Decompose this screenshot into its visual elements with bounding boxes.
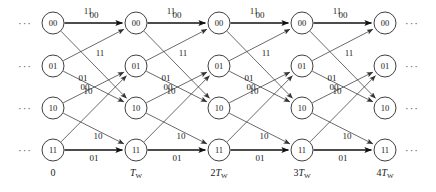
state-node-11-t0[interactable]: 11 (42, 139, 64, 161)
state-node-11-t3[interactable]: 11 (291, 139, 313, 161)
transition-edge-00-to-10 (227, 31, 292, 98)
state-node-10-t1[interactable]: 10 (125, 97, 147, 119)
time-axis-label-0: 0 (51, 167, 56, 178)
state-node-10-t2[interactable]: 10 (208, 97, 230, 119)
state-node-10-t4[interactable]: 10 (374, 97, 396, 119)
state-node-label: 01 (381, 61, 390, 71)
edge-label-11-to-01: 10 (84, 86, 94, 96)
state-node-label: 11 (381, 145, 389, 155)
state-node-11-t2[interactable]: 11 (208, 139, 230, 161)
state-node-label: 00 (215, 18, 224, 28)
state-node-label: 00 (298, 18, 307, 28)
transition-edge-01-to-00 (63, 29, 124, 60)
edge-label-00-to-10: 11 (262, 48, 271, 58)
state-node-11-t1[interactable]: 11 (125, 139, 147, 161)
state-node-label: 11 (298, 145, 306, 155)
state-node-label: 01 (298, 61, 307, 71)
edge-label-10-to-11: 10 (260, 131, 270, 141)
state-node-00-t1[interactable]: 00 (125, 12, 147, 34)
state-node-01-t4[interactable]: 01 (374, 55, 396, 77)
state-node-01-t2[interactable]: 01 (208, 55, 230, 77)
edge-label-11-to-01: 10 (167, 86, 177, 96)
edge-label-10-to-01: 01 (79, 73, 88, 83)
state-node-01-t1[interactable]: 01 (125, 55, 147, 77)
state-node-01-t0[interactable]: 01 (42, 55, 64, 77)
edge-label-11-to-11: 01 (173, 153, 182, 163)
state-node-label: 10 (49, 103, 58, 113)
ellipsis-left-11: ··· (18, 144, 32, 156)
state-node-10-t3[interactable]: 10 (291, 97, 313, 119)
edge-label-01-to-00: 11 (84, 6, 93, 16)
edge-label-11-to-11: 01 (256, 153, 265, 163)
state-node-label: 11 (132, 145, 140, 155)
time-axis-label-3: 3TW (293, 167, 311, 180)
trellis-diagram: 0011110001101001001111000110100100111100… (0, 0, 436, 192)
state-node-label: 00 (49, 18, 58, 28)
state-node-00-t0[interactable]: 00 (42, 12, 64, 34)
edge-label-01-to-00: 11 (333, 6, 342, 16)
trellis-canvas: 0011110001101001001111000110100100111100… (0, 0, 436, 192)
state-node-label: 10 (298, 103, 307, 113)
edge-label-00-to-10: 11 (345, 48, 354, 58)
edge-label-10-to-01: 01 (245, 73, 254, 83)
state-node-label: 10 (132, 103, 141, 113)
edge-label-11-to-11: 01 (90, 153, 99, 163)
transition-edge-00-to-10 (144, 31, 209, 98)
state-node-label: 10 (215, 103, 224, 113)
state-node-00-t3[interactable]: 00 (291, 12, 313, 34)
transition-edge-01-to-00 (229, 29, 290, 60)
transition-edge-00-to-10 (310, 31, 375, 98)
time-axis-label-2: 2TW (210, 167, 228, 180)
state-node-10-t0[interactable]: 10 (42, 97, 64, 119)
edge-label-10-to-11: 10 (94, 131, 104, 141)
transition-edge-00-to-10 (61, 31, 126, 98)
state-node-label: 11 (49, 145, 57, 155)
state-node-label: 10 (381, 103, 390, 113)
edge-label-10-to-11: 10 (177, 131, 187, 141)
ellipsis-right-01: ··· (405, 60, 419, 72)
state-node-00-t4[interactable]: 00 (374, 12, 396, 34)
ellipsis-left-01: ··· (18, 60, 32, 72)
state-node-11-t4[interactable]: 11 (374, 139, 396, 161)
state-node-label: 00 (132, 18, 141, 28)
ellipsis-right-00: ··· (405, 17, 419, 29)
ellipsis-right-11: ··· (405, 144, 419, 156)
state-node-00-t2[interactable]: 00 (208, 12, 230, 34)
transition-edge-01-to-00 (312, 29, 373, 60)
ellipsis-layer: ························ (18, 17, 419, 156)
state-node-label: 01 (215, 61, 224, 71)
state-node-label: 00 (381, 18, 390, 28)
edge-label-00-to-10: 11 (179, 48, 188, 58)
edge-label-10-to-01: 01 (162, 73, 171, 83)
edge-label-00-to-10: 11 (96, 48, 105, 58)
edge-label-01-to-00: 11 (250, 6, 259, 16)
state-node-label: 01 (132, 61, 141, 71)
state-node-label: 11 (215, 145, 223, 155)
edges-layer (61, 23, 375, 150)
edge-label-01-to-00: 11 (167, 6, 176, 16)
state-node-01-t3[interactable]: 01 (291, 55, 313, 77)
edge-label-11-to-01: 10 (250, 86, 260, 96)
edge-label-10-to-11: 10 (343, 131, 353, 141)
transition-edge-01-to-00 (146, 29, 207, 60)
edge-label-11-to-11: 01 (339, 153, 348, 163)
ellipsis-left-10: ··· (18, 102, 32, 114)
edge-label-11-to-01: 10 (333, 86, 343, 96)
state-node-label: 01 (49, 61, 58, 71)
edge-label-10-to-01: 01 (328, 73, 337, 83)
time-axis-label-4: 4TW (376, 167, 394, 180)
time-axis-layer: 0TW2TW3TW4TW (51, 167, 394, 180)
time-axis-label-1: TW (130, 167, 143, 180)
ellipsis-left-00: ··· (18, 17, 32, 29)
ellipsis-right-10: ··· (405, 102, 419, 114)
